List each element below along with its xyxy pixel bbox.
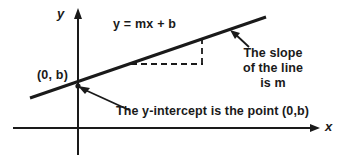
slope-note: The slope of the line is m (232, 46, 314, 90)
x-axis-arrowhead (310, 124, 320, 132)
line-graph-figure: y = mx + b (0, b) The slope of the line … (0, 0, 341, 165)
slope-note-line-1: The slope (232, 46, 314, 61)
y-axis-arrowhead (74, 8, 82, 19)
x-axis-label: x (325, 119, 332, 134)
x-axis (13, 124, 320, 132)
slope-arrow (230, 30, 249, 47)
y-axis-label: y (57, 6, 64, 21)
slope-note-line-3: is m (232, 76, 314, 91)
intercept-point-label: (0, b) (37, 68, 68, 83)
y-intercept-note: The y-intercept is the point (0,b) (116, 104, 309, 119)
line-equation-label: y = mx + b (113, 17, 176, 32)
intercept-arrow-head (78, 86, 90, 94)
slope-note-line-2: of the line (232, 61, 314, 76)
